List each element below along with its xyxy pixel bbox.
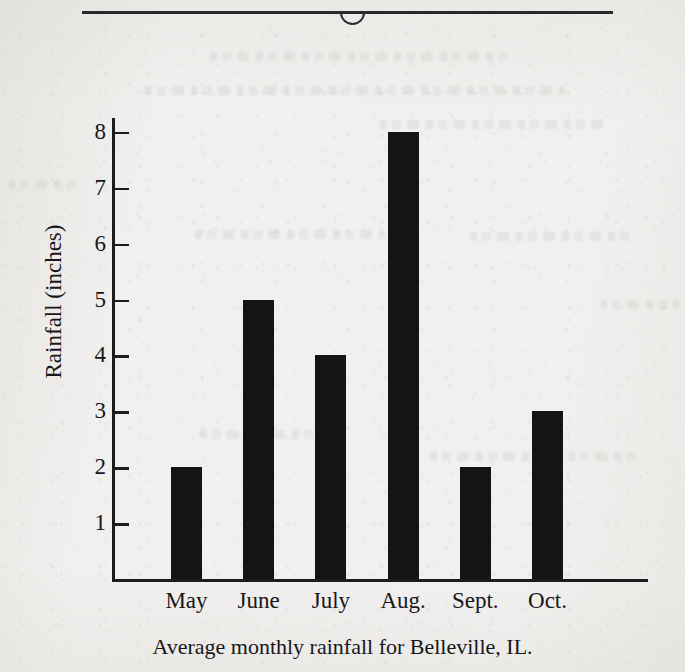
figure-caption: Average monthly rainfall for Belleville,…	[0, 635, 685, 659]
bar	[243, 300, 274, 580]
bar	[460, 467, 491, 579]
x-axis-line	[112, 579, 648, 582]
bar	[388, 132, 419, 579]
bar	[171, 467, 202, 579]
bar	[315, 355, 346, 579]
bar	[532, 411, 563, 579]
x-axis-category-label: Oct.	[498, 589, 598, 612]
bar-series	[0, 0, 685, 579]
scanned-chart-page: Rainfall (inches) 12345678 MayJuneJulyAu…	[0, 0, 685, 672]
